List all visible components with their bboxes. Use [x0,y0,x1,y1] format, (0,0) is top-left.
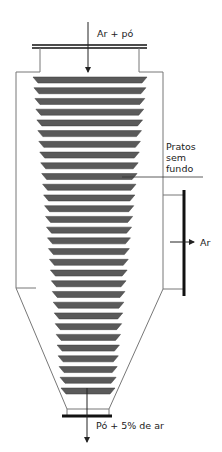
plate [49,259,128,265]
plate [34,88,146,94]
plate [38,131,142,137]
plate [59,367,117,373]
plate [47,227,132,233]
air-outlet-label: Ar [200,237,210,248]
plate [40,152,140,158]
plate [54,313,122,319]
plate [56,334,120,340]
plate [46,216,133,222]
inlet-flange [32,45,147,48]
air-outlet-duct [163,190,184,296]
plate [36,109,144,115]
plate [55,324,121,330]
plate [37,120,143,126]
plate [51,281,126,287]
plate [48,249,129,255]
plate [39,141,141,147]
inlet-label: Ar + pó [97,28,133,39]
plate [43,184,136,190]
separator-diagram: Ar + pó Pratos sem fundo Ar Pó + 5% de a… [0,0,222,452]
plate [57,345,119,351]
plate [58,356,118,362]
plates-label-line2: sem [166,152,186,163]
plates-stack [33,77,147,394]
plates-label-line1: Pratos [166,141,196,152]
plate [33,77,147,83]
plate [61,388,115,394]
dust-outlet-label: Pó + 5% de ar [96,420,164,431]
plate [45,206,134,212]
plate [52,291,125,297]
plate [35,98,145,104]
plates-label-line3: fundo [166,163,193,174]
plate [44,195,135,201]
plate [50,270,127,276]
plate [47,238,130,244]
plate [53,302,124,308]
plate [60,377,116,383]
plate [42,174,137,180]
plate [41,163,138,169]
